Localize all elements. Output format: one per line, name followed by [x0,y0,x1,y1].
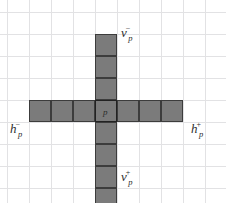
center-cell: p [95,100,117,122]
cross-cell-horizontal-right-1 [117,100,139,122]
cross-shape: p [0,0,226,203]
grid-cross-figure: p v−p v+p h−p h+p [0,0,226,203]
center-cell-label: p [103,108,108,117]
cross-cell-vertical-down-2 [95,144,117,166]
label-v-minus-p: v−p [121,26,136,39]
cross-cell-vertical-down-3 [95,166,117,188]
label-h-plus-p-subscript: p [199,129,203,139]
label-v-plus-p: v+p [121,170,136,183]
label-v-minus-p-subscript: p [128,33,132,43]
label-v-minus-p-superscript: − [126,24,131,33]
cross-cell-vertical-up-2 [95,78,117,100]
cross-cell-horizontal-left-2 [51,100,73,122]
cross-cell-horizontal-left-1 [73,100,95,122]
label-h-minus-p-subscript: p [18,129,22,139]
cross-cell-horizontal-left-3 [29,100,51,122]
cross-cell-vertical-up-4 [95,34,117,56]
label-h-plus-p: h+p [191,122,206,135]
cross-cell-vertical-down-1 [95,122,117,144]
cross-cell-vertical-down-4 [95,188,117,203]
cross-cell-vertical-up-3 [95,56,117,78]
label-h-plus-p-superscript: + [197,120,202,129]
label-h-minus-p: h−p [10,122,25,135]
cross-cell-horizontal-right-2 [139,100,161,122]
label-v-plus-p-subscript: p [128,177,132,187]
cross-cell-horizontal-right-3 [161,100,183,122]
label-h-minus-p-superscript: − [16,120,21,129]
label-v-plus-p-superscript: + [126,168,131,177]
